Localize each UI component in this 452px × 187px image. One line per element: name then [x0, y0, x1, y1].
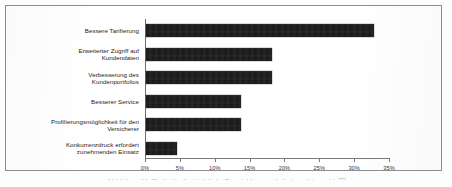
x-tick-label-10: 10% — [209, 165, 221, 171]
bar-bessere-tarifierung — [146, 24, 374, 37]
x-tick-mark — [145, 158, 146, 162]
figure-caption: Abbildung 21: Trails für Aufsichtliche E… — [0, 176, 452, 187]
figure-caption-text: Abbildung 21: Trails für Aufsichtliche E… — [0, 176, 452, 187]
x-tick-mark — [215, 158, 216, 162]
x-tick-label-35: 35% — [383, 165, 395, 171]
x-tick-label-5: 5% — [176, 165, 184, 171]
category-label-line2: Kundenportfolios — [92, 78, 139, 85]
category-label: Konkurrenzdruck erfordert zunehmenden Ei… — [9, 141, 139, 156]
x-tick-mark — [319, 158, 320, 162]
x-tick-label-15: 15% — [244, 165, 256, 171]
category-label: Profilierungsmöglichkeit für den Versich… — [9, 118, 139, 133]
category-label-line1: Besserer Service — [91, 98, 139, 105]
bar-profilierungsmoeglichkeit-fuer-den-versicherer — [146, 118, 241, 131]
category-label-line1: Profilierungsmöglichkeit für den — [51, 118, 139, 125]
category-label: Verbesserung des Kundenportfolios — [9, 71, 139, 86]
x-tick-mark — [284, 158, 285, 162]
figure-caption-label: Abbildung 21: Trails für Aufsichtliche E… — [106, 178, 338, 187]
x-tick-label-0: 0% — [141, 165, 149, 171]
category-label-line2: Versicherer — [107, 125, 139, 132]
x-tick-mark — [389, 158, 390, 162]
category-label: Bessere Tarifierung — [9, 27, 139, 34]
bar-verbesserung-des-kundenportfolios — [146, 71, 272, 84]
x-tick-label-20: 20% — [279, 165, 291, 171]
category-label-line1: Erweiterter Zugriff auf — [78, 47, 139, 54]
x-tick-mark — [250, 158, 251, 162]
bar-konkurrenzdruck-erfordert-zunehmenden-einsatz — [146, 142, 177, 155]
figure-root: 0% 5% 10% 15% 20% 25% 30% 35% Bessere Ta… — [0, 0, 452, 187]
x-tick-mark — [180, 158, 181, 162]
figure-caption-footnote-marker: 273 — [338, 177, 346, 182]
plot-area: 0% 5% 10% 15% 20% 25% 30% 35% Bessere Ta… — [145, 19, 389, 158]
bar-besserer-service — [146, 95, 241, 108]
category-label-line1: Verbesserung des — [88, 71, 139, 78]
chart-frame: 0% 5% 10% 15% 20% 25% 30% 35% Bessere Ta… — [5, 5, 442, 171]
category-label: Erweiterter Zugriff auf Kundendaten — [9, 47, 139, 62]
x-tick-label-25: 25% — [314, 165, 326, 171]
category-label-line1: Bessere Tarifierung — [85, 27, 139, 34]
x-tick-label-30: 30% — [348, 165, 360, 171]
category-label-line2: Kundendaten — [102, 54, 139, 61]
bar-erweiterter-zugriff-auf-kundendaten — [146, 48, 272, 61]
category-label-line2: zunehmenden Einsatz — [77, 148, 139, 155]
x-tick-mark — [354, 158, 355, 162]
category-label-line1: Konkurrenzdruck erfordert — [66, 141, 139, 148]
category-label: Besserer Service — [9, 98, 139, 105]
y-axis-line — [145, 19, 146, 158]
